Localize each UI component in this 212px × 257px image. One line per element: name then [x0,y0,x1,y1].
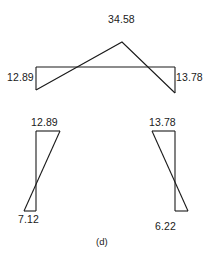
figure-caption: (d) [96,236,108,248]
left-column-moment-diagram [24,131,60,211]
beam-moment-diagram [36,42,175,93]
right-column-moment-outline [152,131,188,211]
bending-moment-figure: 34.58 12.89 13.78 12.89 13.78 7.12 6.22 … [0,0,212,257]
beam-apex-moment-label: 34.58 [108,13,135,25]
left-column-base-moment-label: 7.12 [18,213,39,225]
beam-left-end-moment-label: 12.89 [7,71,34,83]
right-column-moment-diagram [152,131,188,211]
right-column-top-moment-label: 13.78 [149,116,176,128]
beam-right-end-moment-label: 13.78 [176,71,203,83]
right-column-base-moment-label: 6.22 [155,220,176,232]
left-column-moment-outline [24,131,60,211]
left-column-top-moment-label: 12.89 [31,116,58,128]
